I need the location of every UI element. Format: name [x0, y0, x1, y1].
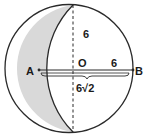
geometry-diagram: A B O 6 6 6√2 — [0, 0, 144, 136]
label-chord-length: 6√2 — [76, 82, 94, 94]
label-a: A — [26, 65, 34, 77]
label-b: B — [135, 65, 143, 77]
label-radius-horizontal: 6 — [111, 57, 117, 69]
brace — [41, 73, 129, 79]
point-b-dot — [132, 69, 135, 72]
label-radius-vertical: 6 — [83, 28, 89, 40]
point-a-dot — [38, 69, 41, 72]
label-o: O — [78, 57, 87, 69]
